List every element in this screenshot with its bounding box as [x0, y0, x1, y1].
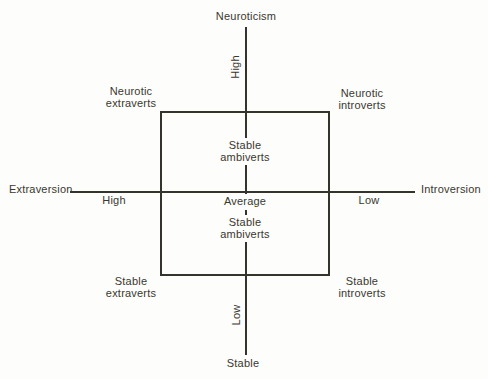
quadrant-label-stable-extraverts: Stable extraverts — [106, 276, 156, 299]
quadrant-label-neurotic-introverts: Neurotic introverts — [338, 88, 385, 111]
quadrant-label-stable-introverts: Stable introverts — [338, 276, 385, 299]
quadrant-label-line: Stable — [106, 276, 156, 288]
quadrant-label-line: Neurotic — [338, 88, 385, 100]
quadrant-label-line: extraverts — [106, 98, 156, 110]
axis-tick-label-high-horizontal: High — [102, 195, 125, 207]
center-label-line: Stable — [220, 140, 269, 152]
quadrant-label-line: Neurotic — [106, 86, 156, 98]
quadrant-label-line: extraverts — [106, 288, 156, 300]
center-label-average: Average — [220, 194, 270, 210]
axis-tick-label-low-horizontal: Low — [359, 195, 380, 207]
axis-label-neuroticism: Neuroticism — [216, 11, 276, 23]
axis-tick-label-low-vertical: Low — [231, 305, 243, 326]
eysenck-personality-diagram: Neuroticism High Extraversion High Low I… — [0, 0, 488, 379]
axis-label-stable: Stable — [227, 358, 259, 370]
quadrant-label-neurotic-extraverts: Neurotic extraverts — [106, 86, 156, 109]
center-label-stable-ambiverts-lower: Stable ambiverts — [216, 215, 273, 242]
center-label-line: Stable — [220, 217, 269, 229]
center-label-stable-ambiverts-upper: Stable ambiverts — [216, 138, 273, 165]
quadrant-label-line: introverts — [338, 288, 385, 300]
axis-label-introversion: Introversion — [421, 184, 481, 196]
axis-label-extraversion: Extraversion — [9, 184, 73, 196]
quadrant-label-line: Stable — [338, 276, 385, 288]
axis-tick-label-high-vertical: High — [230, 55, 242, 78]
center-label-line: ambiverts — [220, 229, 269, 241]
center-label-line: ambiverts — [220, 152, 269, 164]
quadrant-label-line: introverts — [338, 100, 385, 112]
